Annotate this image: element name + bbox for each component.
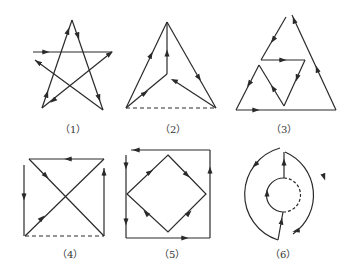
figure-4-square-diagonals (24, 159, 104, 236)
arrow-icon (147, 172, 150, 174)
arrow-icon (296, 230, 300, 231)
arrow-icon (142, 93, 145, 95)
figure-6-label: （6） (270, 249, 296, 260)
diagram-canvas: （1） （2） （3） （4） （5） （6） (0, 0, 354, 278)
arrow-icon (108, 54, 110, 56)
arrow-icon (297, 75, 298, 78)
arrow-icon (273, 88, 275, 91)
arrow-icon (174, 81, 177, 83)
arrow-icon (197, 75, 199, 78)
arrow-icon (249, 81, 251, 84)
figure-5-label: （5） (159, 249, 185, 260)
figure-1-label: （1） (60, 124, 86, 135)
arrow-icon (38, 62, 40, 63)
figure-6-circles (245, 148, 324, 240)
figure-1-star (33, 20, 112, 110)
figure-3-nested-triangles (236, 15, 336, 110)
figure-2-label: （2） (160, 124, 186, 135)
arrow-icon (185, 173, 187, 175)
arrow-icon (323, 174, 324, 177)
arrow-icon (44, 174, 46, 176)
figure-3-label: （3） (271, 124, 297, 135)
arrow-icon (281, 221, 282, 224)
arrow-icon (273, 37, 275, 40)
figure-5-square-diamond (126, 150, 210, 238)
figure-2-triangle-y (126, 22, 216, 108)
figure-4-label: （4） (57, 249, 83, 260)
